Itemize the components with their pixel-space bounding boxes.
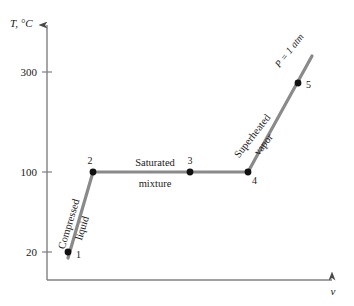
y-tick-label-100: 100 — [21, 166, 38, 178]
state-point-2-marker — [90, 169, 97, 176]
y-tick-label-20: 20 — [26, 246, 38, 258]
tv-diagram-svg: 20 100 300 T, °C v 1 2 3 4 5 Compressed … — [0, 0, 354, 306]
y-tick-label-300: 300 — [21, 66, 38, 78]
tv-diagram-figure: 20 100 300 T, °C v 1 2 3 4 5 Compressed … — [0, 0, 354, 306]
state-point-4-marker — [245, 169, 252, 176]
state-point-5-label: 5 — [306, 79, 311, 90]
state-point-3-label: 3 — [188, 155, 193, 166]
state-point-5-marker — [295, 80, 302, 87]
y-axis-title: T, °C — [10, 17, 33, 29]
state-point-4-label: 4 — [252, 175, 257, 186]
compressed-liquid-annotation: Compressed liquid — [56, 197, 95, 255]
state-point-1-label: 1 — [76, 249, 81, 260]
state-point-2-label: 2 — [88, 155, 93, 166]
pressure-label-text: P = 1 atm — [272, 31, 306, 70]
x-axis-title: v — [331, 285, 336, 297]
state-point-3-marker — [187, 169, 194, 176]
saturated-mixture-line2: mixture — [139, 178, 172, 189]
pressure-annotation: P = 1 atm — [272, 31, 306, 70]
saturated-mixture-line1: Saturated — [135, 157, 175, 168]
